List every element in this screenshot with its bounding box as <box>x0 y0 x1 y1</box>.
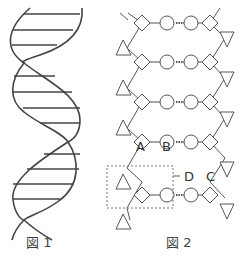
sugar-diamonds-left <box>134 15 150 203</box>
label-a: A <box>136 140 145 153</box>
label-d: D <box>184 170 194 183</box>
phosphate-triangles-left <box>116 40 131 229</box>
base-pair-rungs <box>12 14 80 199</box>
phosphate-triangles-right <box>220 32 234 219</box>
double-helix <box>10 8 82 240</box>
label-c: C <box>206 170 215 183</box>
diagram-canvas <box>0 0 242 255</box>
figure-2-caption: 図 2 <box>166 236 191 249</box>
figure-1-caption: 図 1 <box>26 236 51 249</box>
nucleotide-ladder <box>107 8 234 229</box>
strand-1 <box>10 8 80 240</box>
label-b: B <box>162 140 171 153</box>
strand-2 <box>13 8 82 240</box>
